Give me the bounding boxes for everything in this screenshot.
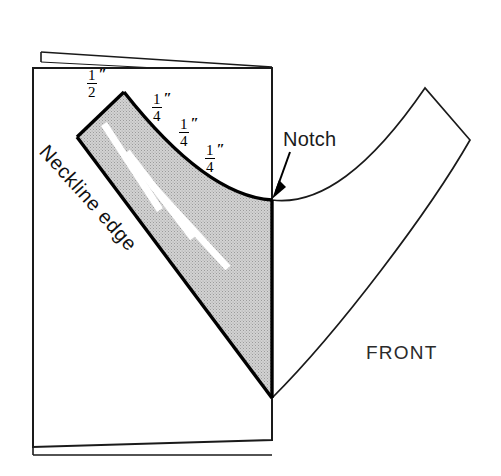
inch-mark: ″ — [191, 116, 199, 131]
notch-arrow — [272, 152, 290, 199]
measurement-label-quarter-inch-2: 1 4 ″ — [179, 117, 197, 150]
inch-mark: ″ — [99, 67, 107, 82]
fraction-one-quarter: 1 4 — [152, 92, 162, 125]
measurement-label-half-inch: 1 2 ″ — [87, 68, 105, 101]
diagram-page: 1 2 ″ 1 4 ″ 1 4 ″ 1 4 ″ Notch FRONT Neck… — [0, 0, 501, 476]
fraction-one-half: 1 2 — [87, 68, 97, 101]
measurement-label-quarter-inch-1: 1 4 ″ — [152, 92, 170, 125]
fraction-one-quarter: 1 4 — [205, 143, 215, 176]
fraction-one-quarter: 1 4 — [179, 117, 189, 150]
measurement-label-quarter-inch-3: 1 4 ″ — [205, 143, 223, 176]
inch-mark: ″ — [217, 142, 225, 157]
front-label: FRONT — [366, 343, 437, 362]
notch-label: Notch — [283, 129, 336, 149]
pattern-diagram — [0, 0, 501, 476]
inch-mark: ″ — [164, 91, 172, 106]
